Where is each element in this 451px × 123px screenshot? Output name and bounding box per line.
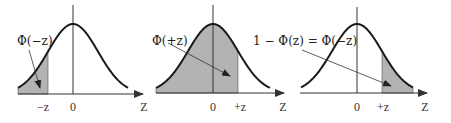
axis-label: Z: [140, 100, 147, 114]
pointer-arrow: [302, 50, 391, 86]
tick-label-zero: 0: [354, 100, 360, 114]
panel-right-tail: 1 − Φ(z) = Φ(−z) 0 +z Z: [253, 7, 429, 114]
tick-label-neg-z: −z: [37, 100, 49, 114]
panel-left-tail: Φ(−z) −z 0 Z: [17, 5, 148, 114]
axis-label: Z: [421, 100, 428, 114]
area-label: Φ(+z): [152, 34, 188, 48]
panel-cumulative: Φ(+z) 0 +z Z: [152, 5, 287, 114]
tick-label-pos-z: +z: [234, 100, 246, 114]
area-label: 1 − Φ(z) = Φ(−z): [253, 34, 357, 48]
tick-label-zero: 0: [70, 100, 76, 114]
tick-label-pos-z: +z: [377, 100, 389, 114]
tick-label-zero: 0: [210, 100, 216, 114]
normal-distribution-diagram: Φ(−z) −z 0 Z Φ(+z) 0 +z Z 1 − Φ(z) = Φ(−…: [0, 0, 451, 123]
axis-label: Z: [279, 100, 286, 114]
area-label: Φ(−z): [17, 34, 53, 48]
